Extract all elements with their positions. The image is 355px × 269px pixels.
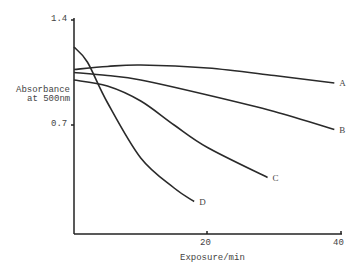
x-axis-label: Exposure/min (180, 253, 245, 263)
y-tick-label: 1.4 (51, 14, 67, 24)
series-label-b: B (339, 125, 345, 135)
curve-b (74, 73, 334, 130)
x-tick-label: 40 (333, 238, 344, 248)
series-label-d: D (199, 197, 206, 207)
y-tick-label: 0.7 (51, 119, 67, 129)
series-label-a: A (339, 78, 346, 88)
curve-d (74, 47, 194, 202)
series-label-c: C (273, 173, 279, 183)
x-tick-label: 20 (200, 238, 211, 248)
curve-a (74, 65, 334, 83)
y-axis-label-line2: at 500nm (27, 94, 70, 104)
chart-canvas (0, 0, 355, 269)
